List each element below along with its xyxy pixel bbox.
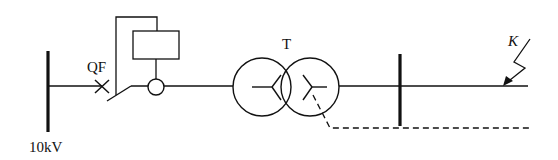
label-transformer: T: [282, 36, 291, 52]
label-source-bus: 10kV: [29, 139, 63, 155]
single-line-diagram: 10kV QF T K: [0, 0, 558, 160]
label-fault: K: [507, 33, 519, 49]
current-transformer-icon: [148, 79, 164, 95]
power-transformer-icon: [233, 58, 339, 116]
label-breaker: QF: [87, 59, 106, 75]
switch-blade: [107, 86, 131, 101]
fault-arrow-icon: [503, 76, 513, 86]
relay-box: [133, 31, 179, 59]
dashed-neutral-line: [313, 95, 532, 128]
